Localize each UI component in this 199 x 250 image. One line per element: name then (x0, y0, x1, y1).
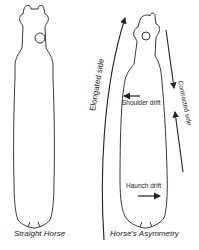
straight-horse-outline (14, 5, 55, 228)
shoulder-drift-label: Shoulder drift (122, 99, 161, 106)
asymmetry-caption: Horse's Asymmetry (110, 229, 179, 238)
haunch-drift-label: Haunch drift (126, 182, 161, 189)
straight-horse-caption: Straight Horse (14, 229, 65, 238)
diagram-canvas (0, 0, 199, 250)
